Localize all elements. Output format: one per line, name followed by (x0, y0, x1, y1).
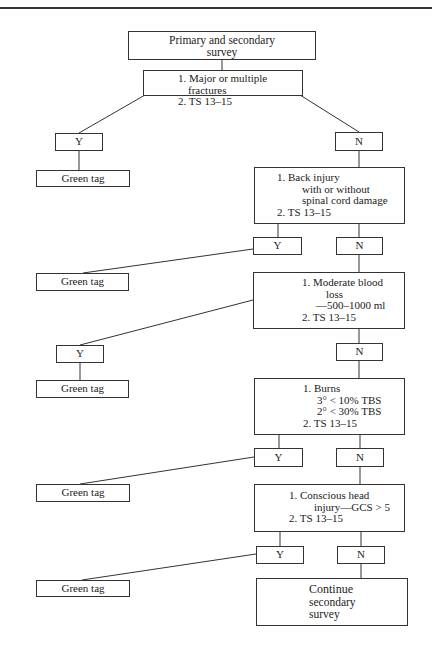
green-tag-outcome: Green tag (36, 484, 130, 502)
decision-line: 2. TS 13–15 (302, 312, 404, 324)
green-tag-outcome: Green tag (36, 580, 130, 597)
no-node: N (336, 448, 384, 467)
decision-back-injury: 1. Back injury with or without spinal co… (254, 167, 405, 224)
decision-line: 1. Back injury (277, 172, 404, 184)
green-tag-outcome: Green tag (36, 170, 130, 187)
no-node: N (336, 237, 383, 255)
decision-line: spinal cord damage (277, 195, 404, 207)
end-line-2: secondary (309, 596, 407, 609)
no-node: N (336, 343, 383, 361)
green-tag-outcome: Green tag (36, 273, 129, 291)
yes-node: Y (55, 133, 103, 151)
yes-node: Y (254, 448, 303, 467)
decision-line: 1. Conscious head (289, 490, 404, 502)
decision-line: 2. TS 13–15 (289, 513, 404, 525)
decision-line: —500–1000 ml (302, 300, 404, 312)
decision-burns: 1. Burns 3° < 10% TBS 2° < 30% TBS 2. TS… (254, 378, 405, 435)
decision-line: 1. Moderate blood (302, 277, 404, 289)
no-node: N (335, 132, 383, 151)
decision-moderate-blood-loss: 1. Moderate blood loss —500–1000 ml 2. T… (253, 272, 405, 329)
yes-node: Y (256, 546, 304, 564)
decision-major-fractures: 1. Major or multiple fractures 2. TS 13–… (143, 70, 303, 96)
decision-line: 2. TS 13–15 (178, 96, 302, 108)
decision-line: 1. Burns (303, 383, 404, 395)
end-line-3: survey (309, 608, 407, 621)
end-node-continue-secondary-survey: Continue secondary survey (256, 578, 408, 626)
no-node: N (337, 546, 385, 564)
start-line-2: survey (169, 46, 275, 58)
yes-node: Y (253, 237, 302, 255)
decision-conscious-head-injury: 1. Conscious head injury—GCS > 5 2. TS 1… (254, 484, 405, 532)
decision-line: 2. TS 13–15 (277, 207, 404, 219)
green-tag-outcome: Green tag (36, 380, 129, 398)
yes-node: Y (56, 345, 104, 363)
decision-line: 1. Major or multiple (178, 73, 302, 85)
decision-line: 2. TS 13–15 (303, 418, 404, 430)
decision-line: 2° < 30% TBS (303, 406, 404, 418)
end-line-1: Continue (309, 583, 407, 596)
start-node-primary-secondary-survey: Primary and secondary survey (128, 31, 316, 60)
start-line-1: Primary and secondary (169, 34, 275, 46)
